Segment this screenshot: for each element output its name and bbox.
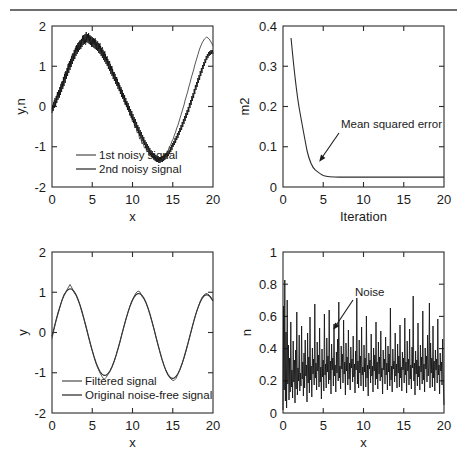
y-tick-label-3: -1 (34, 365, 46, 380)
annotation-label: Mean squared error (341, 118, 442, 130)
x-tick-label-1: 5 (320, 192, 327, 207)
legend: 1st noisy signal 2nd noisy signal (76, 149, 181, 175)
y-tick-label-4: 0.2 (259, 373, 277, 388)
legend-label-filtered-signal: Filtered signal (85, 375, 157, 387)
y-tick-label-3: -1 (34, 139, 46, 154)
y-tick-label-1: 1 (39, 59, 46, 74)
y-tick-label-3: 0.1 (259, 139, 277, 154)
legend-label-1st-noisy-signal: 1st noisy signal (99, 149, 178, 161)
legend: Filtered signal Original noise-free sign… (62, 375, 212, 401)
x-axis-ticks (323, 26, 404, 187)
series-2nd-noisy-signal (52, 32, 213, 163)
noisy-signals-svg: 1st noisy signal 2nd noisy signal 2 1 0 … (0, 14, 232, 230)
y-tick-label-2: 0 (39, 325, 46, 340)
figure-canvas: 1st noisy signal 2nd noisy signal 2 1 0 … (0, 0, 467, 460)
y-tick-label-0: 2 (39, 245, 46, 260)
x-tick-label-3: 15 (166, 192, 180, 207)
chart-panel-noisy-signals: 1st noisy signal 2nd noisy signal 2 1 0 … (0, 14, 232, 230)
y-tick-label-1: 0.3 (259, 59, 277, 74)
y-tick-label-3: 0.4 (259, 341, 277, 356)
y-tick-label-1: 0.8 (259, 277, 277, 292)
x-tick-label-1: 5 (89, 192, 96, 207)
chart-panel-mean-squared-error: Mean squared error 0.4 0.3 0.2 0.1 0 0 5… (235, 14, 467, 230)
series-original-noise-free-signal (52, 289, 213, 379)
x-tick-label-1: 5 (89, 418, 96, 433)
y-axis-ticks (52, 292, 213, 373)
chart-panel-noise: Noise 1 0.8 0.6 0.4 0.2 0 0 5 10 15 20 x… (235, 240, 467, 456)
x-tick-label-0: 0 (279, 192, 286, 207)
x-tick-label-2: 10 (356, 192, 370, 207)
y-axis-label: y,n (13, 98, 28, 114)
arrowhead (319, 155, 325, 162)
y-tick-label-2: 0.6 (259, 309, 277, 324)
y-axis-ticks (283, 66, 444, 147)
y-axis-label: m2 (237, 97, 252, 115)
x-tick-label-3: 15 (166, 418, 180, 433)
y-tick-label-2: 0 (39, 99, 46, 114)
x-tick-label-4: 20 (437, 192, 451, 207)
series-mean-squared-error (291, 38, 444, 177)
y-tick-label-1: 1 (39, 285, 46, 300)
y-tick-label-0: 2 (39, 19, 46, 34)
x-tick-label-3: 15 (397, 192, 411, 207)
x-tick-label-0: 0 (48, 418, 55, 433)
filtered-svg: Filtered signal Original noise-free sign… (0, 240, 232, 456)
annotation-label: Noise (355, 286, 384, 298)
series-noise (283, 280, 444, 410)
x-axis-label: Iteration (340, 209, 387, 224)
y-tick-label-4: 0 (270, 180, 277, 195)
x-tick-label-1: 5 (320, 418, 327, 433)
x-tick-label-4: 20 (437, 418, 451, 433)
legend-label-original-noise-free-signal: Original noise-free signal (85, 389, 212, 401)
x-axis-label: x (129, 435, 136, 450)
y-tick-label-2: 0.2 (259, 99, 277, 114)
x-tick-label-0: 0 (279, 418, 286, 433)
legend-label-2nd-noisy-signal: 2nd noisy signal (99, 163, 181, 175)
x-tick-label-4: 20 (206, 192, 220, 207)
annotation-mean-squared-error: Mean squared error (319, 118, 442, 162)
x-tick-label-0: 0 (48, 192, 55, 207)
y-tick-label-0: 1 (270, 245, 277, 260)
series-filtered-signal (52, 285, 213, 381)
x-axis-label: x (360, 435, 367, 450)
mse-svg: Mean squared error 0.4 0.3 0.2 0.1 0 0 5… (235, 14, 467, 230)
x-tick-label-2: 10 (125, 418, 139, 433)
noise-svg: Noise 1 0.8 0.6 0.4 0.2 0 0 5 10 15 20 x… (235, 240, 467, 456)
x-axis-label: x (129, 209, 136, 224)
x-tick-label-3: 15 (397, 418, 411, 433)
y-tick-label-4: -2 (34, 406, 46, 421)
y-tick-label-5: 0 (270, 406, 277, 421)
y-tick-label-4: -2 (34, 180, 46, 195)
annotation-noise: Noise (333, 286, 384, 330)
y-axis-label: y (15, 329, 30, 336)
x-tick-label-2: 10 (125, 192, 139, 207)
y-axis-label: n (239, 329, 254, 336)
page-divider-rule (10, 9, 457, 11)
x-tick-label-2: 10 (356, 418, 370, 433)
chart-panel-filtered-signal: Filtered signal Original noise-free sign… (0, 240, 232, 456)
x-tick-label-4: 20 (206, 418, 220, 433)
plot-frame (283, 26, 444, 187)
y-tick-label-0: 0.4 (259, 19, 277, 34)
